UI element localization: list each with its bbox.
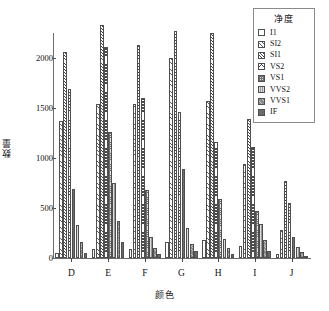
y-tick-label: 1000 bbox=[23, 154, 53, 162]
x-tick-label-F: F bbox=[130, 268, 160, 278]
y-tick-label: 0 bbox=[23, 254, 53, 262]
x-tick-mark bbox=[292, 258, 293, 262]
bar-J-VVS1 bbox=[300, 252, 304, 258]
legend-swatch-VS2 bbox=[258, 63, 265, 70]
bar-H-SI2 bbox=[206, 101, 210, 258]
legend: 净度 I1SI2SI1VS2VS1VVS2VVS1IF bbox=[253, 8, 315, 123]
bar-G-IF bbox=[194, 251, 198, 258]
bar-F-VVS2 bbox=[149, 237, 153, 258]
legend-item-I1[interactable]: I1 bbox=[258, 27, 310, 38]
x-tick-label-J: J bbox=[277, 268, 307, 278]
bar-D-IF bbox=[84, 253, 88, 259]
bar-D-VS1 bbox=[72, 189, 76, 258]
bar-G-VS1 bbox=[182, 169, 186, 258]
bar-group-D bbox=[55, 33, 87, 258]
bar-F-I1 bbox=[129, 249, 133, 259]
bar-F-IF bbox=[157, 254, 161, 259]
legend-item-SI1[interactable]: SI1 bbox=[258, 50, 310, 61]
legend-item-VS2[interactable]: VS2 bbox=[258, 61, 310, 72]
bar-G-VVS2 bbox=[186, 228, 190, 258]
legend-swatch-VVS2 bbox=[258, 86, 265, 93]
bar-G-I1 bbox=[165, 242, 169, 258]
bar-G-SI2 bbox=[169, 58, 173, 259]
bar-I-I1 bbox=[239, 246, 243, 258]
x-tick-label-H: H bbox=[203, 268, 233, 278]
bar-J-VVS2 bbox=[296, 247, 300, 258]
bar-G-VVS1 bbox=[190, 244, 194, 259]
y-tick-label: 500 bbox=[23, 204, 53, 212]
bar-E-SI1 bbox=[100, 25, 104, 258]
legend-label: VS2 bbox=[270, 63, 284, 71]
x-tick-mark bbox=[218, 258, 219, 262]
y-axis-title: 数量 bbox=[1, 118, 15, 178]
bar-F-VS2 bbox=[141, 98, 145, 258]
bar-G-VS2 bbox=[178, 112, 182, 258]
x-tick-mark bbox=[255, 258, 256, 262]
bar-F-VS1 bbox=[145, 190, 149, 258]
bar-D-VVS1 bbox=[80, 242, 84, 258]
bar-E-I1 bbox=[92, 249, 96, 258]
bar-E-SI2 bbox=[96, 104, 100, 258]
legend-swatch-SI2 bbox=[258, 41, 265, 48]
bar-H-VVS1 bbox=[227, 248, 231, 258]
legend-swatch-SI1 bbox=[258, 52, 265, 59]
bar-E-VS1 bbox=[108, 132, 112, 259]
bar-H-VVS2 bbox=[223, 239, 227, 258]
y-tick-label: 2000 bbox=[23, 54, 53, 62]
legend-label: VVS1 bbox=[270, 97, 290, 105]
legend-items: I1SI2SI1VS2VS1VVS2VVS1IF bbox=[258, 27, 310, 118]
x-tick-mark bbox=[108, 258, 109, 262]
bar-J-SI1 bbox=[284, 181, 288, 258]
x-tick-label-G: G bbox=[167, 268, 197, 278]
bar-J-IF bbox=[304, 256, 308, 259]
bar-group-G bbox=[165, 33, 197, 258]
legend-label: VVS2 bbox=[270, 86, 290, 94]
bar-group-E bbox=[92, 33, 124, 258]
bar-E-VVS2 bbox=[112, 183, 116, 258]
legend-item-IF[interactable]: IF bbox=[258, 107, 310, 118]
legend-swatch-VS1 bbox=[258, 75, 265, 82]
bar-D-SI2 bbox=[59, 121, 63, 258]
bar-D-VVS2 bbox=[76, 225, 80, 258]
y-axis-ticks: 0500100015002000 bbox=[14, 0, 53, 311]
x-tick-label-D: D bbox=[56, 268, 86, 278]
bar-F-VVS1 bbox=[153, 248, 157, 258]
legend-item-VVS2[interactable]: VVS2 bbox=[258, 84, 310, 95]
legend-item-SI2[interactable]: SI2 bbox=[258, 38, 310, 49]
legend-swatch-VVS1 bbox=[258, 98, 265, 105]
bar-E-VS2 bbox=[104, 47, 108, 258]
bar-H-IF bbox=[231, 254, 235, 259]
x-tick-label-I: I bbox=[240, 268, 270, 278]
bar-I-VVS2 bbox=[259, 224, 263, 259]
x-tick-mark bbox=[145, 258, 146, 262]
bar-J-I1 bbox=[276, 254, 280, 258]
x-tick-mark bbox=[182, 258, 183, 262]
bar-D-I1 bbox=[55, 253, 59, 258]
bar-I-VS1 bbox=[255, 211, 259, 258]
legend-item-VVS1[interactable]: VVS1 bbox=[258, 95, 310, 106]
bar-E-VVS1 bbox=[117, 221, 121, 259]
legend-item-VS1[interactable]: VS1 bbox=[258, 73, 310, 84]
legend-label: SI1 bbox=[270, 51, 281, 59]
legend-label: VS1 bbox=[270, 74, 284, 82]
bar-group-F bbox=[129, 33, 161, 258]
bar-F-SI2 bbox=[133, 104, 137, 259]
x-tick-label-E: E bbox=[93, 268, 123, 278]
bar-J-VS1 bbox=[292, 237, 296, 259]
bar-G-SI1 bbox=[174, 31, 178, 258]
y-tick-label: 1500 bbox=[23, 104, 53, 112]
legend-title: 净度 bbox=[258, 12, 310, 25]
legend-swatch-IF bbox=[258, 109, 265, 116]
bar-H-VS1 bbox=[218, 199, 222, 259]
bar-J-SI2 bbox=[280, 230, 284, 258]
bar-E-IF bbox=[121, 242, 125, 258]
bar-I-VVS1 bbox=[263, 240, 267, 259]
bar-H-I1 bbox=[202, 240, 206, 258]
bar-D-SI1 bbox=[63, 52, 67, 258]
legend-label: SI2 bbox=[270, 40, 281, 48]
bar-F-SI1 bbox=[137, 45, 141, 259]
bar-I-SI2 bbox=[243, 164, 247, 258]
bar-group-H bbox=[202, 33, 234, 258]
bar-J-VS2 bbox=[288, 203, 292, 259]
legend-label: I1 bbox=[270, 29, 277, 37]
